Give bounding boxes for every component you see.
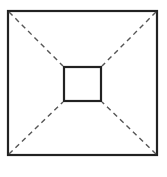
inner-square — [64, 67, 101, 101]
diagonal-bottom-right — [102, 102, 156, 154]
frustum-diagram — [0, 0, 167, 177]
diagonal-bottom-left — [9, 102, 63, 154]
diagonal-top-right — [102, 12, 156, 66]
diagonal-top-left — [9, 12, 63, 66]
